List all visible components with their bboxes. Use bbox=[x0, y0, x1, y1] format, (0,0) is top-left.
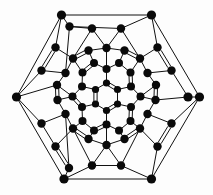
inner-ring-v7 bbox=[115, 127, 123, 135]
outer-ring-v17 bbox=[51, 43, 59, 51]
middle-ring-v16 bbox=[69, 54, 77, 62]
outer-ring-v5 bbox=[195, 92, 204, 101]
middle-ring-v7 bbox=[136, 124, 144, 132]
outer-ring-v10 bbox=[88, 161, 96, 169]
outer-ring-v13 bbox=[51, 142, 59, 150]
inner-ring-v4 bbox=[137, 93, 145, 101]
inner-ring-v14 bbox=[79, 69, 87, 77]
outer-ring-v15 bbox=[12, 92, 21, 101]
center-hex-v0 bbox=[103, 79, 110, 86]
middle-ring-v2 bbox=[136, 54, 144, 62]
inner-ring-v9 bbox=[90, 127, 98, 135]
inner-ring-v13 bbox=[78, 83, 86, 91]
inner-ring-v11 bbox=[78, 103, 86, 111]
outer-ring-v14 bbox=[37, 119, 45, 127]
middle-ring-v10 bbox=[84, 135, 92, 143]
inner-ring-v2 bbox=[127, 69, 135, 77]
inner-ring-v10 bbox=[79, 117, 87, 125]
center-hex-v4 bbox=[92, 100, 99, 107]
inner-ring-v1 bbox=[115, 59, 123, 67]
middle-ring-v4 bbox=[152, 81, 160, 89]
outer-ring-v4 bbox=[183, 92, 192, 101]
inner-ring-v12 bbox=[69, 93, 77, 101]
outer-ring-v19 bbox=[65, 22, 73, 30]
fullerene-schlegel-figure: Planar projection (Schlegel diagram) of … bbox=[0, 0, 213, 195]
outer-ring-v8 bbox=[147, 174, 156, 183]
middle-ring-v5 bbox=[151, 96, 159, 104]
middle-ring-v3 bbox=[143, 69, 151, 77]
outer-ring-v18 bbox=[57, 10, 66, 19]
outer-ring-v9 bbox=[117, 161, 125, 169]
inner-ring-v5 bbox=[127, 103, 135, 111]
middle-ring-v0 bbox=[102, 44, 110, 52]
outer-ring-v1 bbox=[147, 10, 156, 19]
center-hex-v1 bbox=[114, 86, 121, 93]
middle-ring-v17 bbox=[84, 46, 92, 54]
outer-ring-v2 bbox=[153, 43, 161, 51]
middle-ring-v11 bbox=[69, 124, 77, 132]
outer-ring-v6 bbox=[167, 119, 175, 127]
middle-ring-v1 bbox=[120, 46, 128, 54]
outer-ring-v11 bbox=[59, 174, 68, 183]
inner-ring-v3 bbox=[127, 83, 135, 91]
outer-ring-v12 bbox=[65, 164, 73, 172]
outer-ring-v16 bbox=[37, 66, 45, 74]
center-hex-v5 bbox=[92, 86, 99, 93]
outer-ring-v20 bbox=[88, 24, 96, 32]
outer-ring-v0 bbox=[117, 24, 125, 32]
middle-ring-v12 bbox=[61, 110, 69, 118]
middle-ring-v9 bbox=[102, 141, 110, 149]
inner-ring-v6 bbox=[127, 117, 135, 125]
center-hex-v3 bbox=[103, 107, 110, 114]
middle-ring-v8 bbox=[120, 135, 128, 143]
inner-ring-v15 bbox=[90, 59, 98, 67]
inner-ring-v0 bbox=[103, 65, 111, 73]
middle-ring-v6 bbox=[143, 110, 151, 118]
fullerene-graph-svg bbox=[0, 0, 213, 195]
inner-ring-v8 bbox=[103, 121, 111, 129]
outer-ring-v7 bbox=[153, 142, 161, 150]
middle-ring-v15 bbox=[61, 69, 69, 77]
middle-ring-v13 bbox=[53, 96, 61, 104]
middle-ring-v14 bbox=[53, 81, 61, 89]
center-hex-v2 bbox=[114, 100, 121, 107]
outer-ring-v3 bbox=[167, 66, 175, 74]
